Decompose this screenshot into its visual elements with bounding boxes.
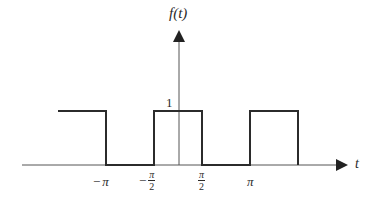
x-axis-label: t	[355, 157, 359, 171]
y-axis-arrow-icon	[173, 30, 185, 42]
tick-symbol: π	[247, 174, 254, 190]
square-wave-signal	[58, 111, 298, 165]
tick-denominator: 2	[199, 181, 204, 192]
tick-denominator: 2	[149, 181, 154, 192]
tick-label-pi: π	[247, 174, 254, 190]
tick-sign: −	[139, 173, 146, 189]
tick-label-pi-half: π 2	[198, 170, 205, 192]
tick-sign: −	[93, 174, 100, 190]
amplitude-label: 1	[166, 96, 173, 109]
tick-label-neg-pi-half: − π 2	[139, 170, 155, 192]
tick-numerator: π	[198, 170, 205, 181]
square-wave-diagram	[0, 0, 377, 203]
tick-label-neg-pi: − π	[93, 174, 109, 190]
x-axis-arrow-icon	[336, 159, 348, 171]
tick-symbol: π	[102, 174, 109, 190]
y-axis-label: f(t)	[169, 6, 187, 21]
tick-numerator: π	[148, 170, 155, 181]
